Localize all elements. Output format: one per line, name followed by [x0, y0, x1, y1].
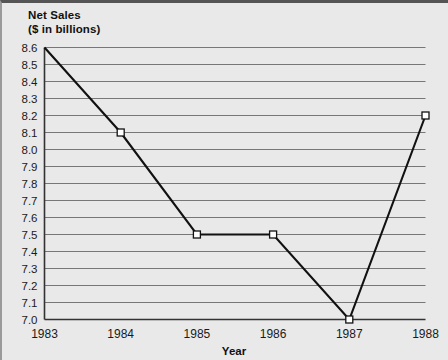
y-axis-tick-labels: 8.68.58.48.38.28.18.07.97.87.77.67.57.47… [22, 42, 39, 326]
y-axis-tick-label: 7.7 [22, 195, 38, 207]
y-axis-tick-label: 7.2 [22, 280, 38, 292]
y-axis-tick-label: 7.9 [22, 161, 38, 173]
data-point-marker [270, 231, 277, 238]
y-axis-tick-label: 8.6 [22, 42, 38, 54]
y-axis-tick-label: 7.1 [22, 297, 38, 309]
y-axis-tick-label: 7.5 [22, 229, 38, 241]
y-axis-tick-label: 7.0 [22, 314, 38, 326]
y-axis-tick-label: 8.3 [22, 93, 38, 105]
x-axis-tick-labels: 198319841985198619871988 [31, 327, 439, 341]
y-axis-tick-label: 8.4 [22, 76, 39, 88]
x-axis-tick-label: 1984 [107, 327, 134, 341]
y-axis-tick-label: 8.0 [22, 144, 38, 156]
data-point-marker [346, 316, 353, 323]
x-axis-title: Year [222, 345, 247, 357]
line-chart-plot: 8.68.58.48.38.28.18.07.97.87.77.67.57.47… [2, 3, 448, 360]
y-axis-tick-label: 7.8 [22, 178, 38, 190]
y-axis-tick-label: 8.5 [22, 59, 38, 71]
data-point-marker [422, 112, 429, 119]
y-axis-tick-label: 7.3 [22, 263, 38, 275]
y-axis-tick-label: 7.4 [22, 246, 39, 258]
x-axis-tick-label: 1985 [184, 327, 211, 341]
gridline-group [45, 48, 426, 303]
x-axis-tick-label: 1983 [31, 327, 58, 341]
y-axis-tick-label: 7.6 [22, 212, 38, 224]
y-axis-tick-label: 8.1 [22, 127, 38, 139]
data-point-marker [117, 129, 124, 136]
chart-figure: Net Sales ($ in billions) 8.68.58.48.38.… [0, 0, 448, 360]
x-axis-tick-label: 1987 [336, 327, 363, 341]
x-axis-tick-label: 1986 [260, 327, 287, 341]
x-axis-tick-label: 1988 [412, 327, 439, 341]
y-axis-tick-label: 8.2 [22, 110, 38, 122]
data-point-marker [193, 231, 200, 238]
